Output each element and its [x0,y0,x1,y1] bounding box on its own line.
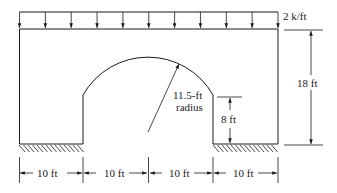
bottom-dim-1: 10 ft [37,167,57,179]
radius-value-label: 11.5-ft [173,89,202,101]
pier-height-dimension: 8 ft [217,97,242,143]
frame-outline [20,29,279,144]
load-label: 2 k/ft [283,10,307,22]
load-arrows [20,12,279,28]
fixed-support-left [19,145,84,152]
bottom-dimensions: 10 ft 10 ft 10 ft 10 ft [20,157,279,183]
arch-frame-diagram: 2 k/ft 11.5-ft radius 8 ft 18 ft 10 ft [0,0,337,193]
total-height-dimension: 18 ft [284,30,323,145]
fixed-support-right [213,145,278,152]
bottom-dim-2: 10 ft [104,167,124,179]
radius-word-label: radius [176,101,203,113]
pier-height-label: 8 ft [221,113,236,125]
distributed-load: 2 k/ft [20,10,307,28]
radius-indicator: 11.5-ft radius [148,64,203,132]
bottom-dim-3: 10 ft [169,167,189,179]
bottom-dim-4: 10 ft [233,167,253,179]
total-height-label: 18 ft [297,77,317,89]
